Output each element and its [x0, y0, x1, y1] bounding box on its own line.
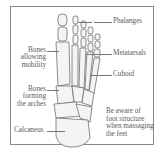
phalanges-leader-line	[78, 22, 92, 23]
label-calcaneus: Calcaneus	[14, 127, 44, 134]
foot-bones-illustration	[48, 12, 108, 150]
massage-note: Be aware of foot structure when massagin…	[106, 108, 156, 138]
label-bones-forming-arches: Bones forming the arches	[10, 86, 46, 108]
arches-leader-line	[47, 90, 59, 91]
metatarsals-leader-line	[86, 54, 112, 55]
calcaneus-leader-line	[47, 131, 65, 132]
cuboid-leader-line	[90, 75, 112, 76]
label-line: mobility	[14, 62, 46, 69]
note-line: the feet	[106, 131, 156, 139]
phalanges-leader-line-2	[94, 22, 112, 23]
label-bones-allowing-mobility: Bones allowing mobility	[14, 47, 46, 69]
label-metatarsals: Metatarsals	[113, 50, 146, 57]
label-cuboid: Cuboid	[113, 71, 134, 78]
label-line: the arches	[10, 101, 46, 108]
mobility-leader-line	[47, 51, 59, 52]
label-phalanges: Phalanges	[113, 18, 142, 25]
